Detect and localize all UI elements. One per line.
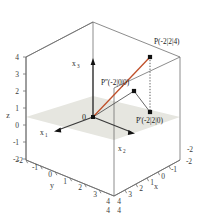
axis-x: 4 3 2 1 0 -1 -2 x (114, 157, 192, 206)
z-tick-5: -1 (13, 138, 19, 147)
point-marker-P-prime (148, 110, 152, 114)
z-tick-4: 0 (15, 121, 19, 130)
y-tick-0: -2 (17, 156, 23, 165)
axis-y: -2 -1 0 1 2 3 4 y (17, 156, 114, 206)
y-tick-4: 2 (78, 183, 82, 192)
y-tick-3: 1 (63, 177, 67, 186)
z-tick-2: 2 (15, 87, 19, 96)
x-tick-2: 2 (139, 184, 143, 193)
z-tick-1: 3 (15, 70, 19, 79)
y-tick-1: -1 (32, 163, 38, 172)
axis-vector-x2: x (118, 144, 122, 153)
y-tick-6: 4 (106, 197, 110, 206)
point-label-P-prime: P'(-2|2|0) (136, 116, 163, 125)
axis-vector-x2-sub: 2 (123, 148, 126, 154)
x-tick-0: 4 (117, 197, 121, 206)
figure-canvas: 4 3 2 1 0 -1 -2 z -2 -1 0 1 2 3 (0, 0, 203, 218)
x-tick-4: 0 (161, 172, 165, 181)
axis-label-z: z (6, 111, 10, 120)
axis-label-y: y (50, 181, 54, 190)
corner-front-tick: 4 (106, 206, 110, 215)
axis-label-x: x (154, 182, 158, 191)
axis-vector-x1-sub: 1 (45, 132, 48, 138)
z-tick-3: 1 (15, 104, 19, 113)
y-tick-2: 0 (48, 170, 52, 179)
y-tick-5: 3 (93, 190, 97, 199)
origin-label: 0 (82, 113, 86, 122)
point-marker-P-dblprime (132, 89, 136, 93)
corner-right-tick: -2 (187, 145, 193, 154)
axis-vector-x1: x (40, 128, 44, 137)
axis-z: 4 3 2 1 0 -1 -2 z (6, 53, 26, 164)
point-marker-origin (91, 115, 95, 119)
corner-front-tick-dup: 4 (117, 206, 121, 215)
z-tick-0: 4 (15, 53, 19, 62)
coordinate-system-figure: 4 3 2 1 0 -1 -2 z -2 -1 0 1 2 3 (0, 0, 203, 218)
point-label-P: P(-2|2|4) (154, 37, 180, 46)
axis-vector-x3-sub: 3 (77, 63, 80, 69)
point-marker-P (148, 55, 152, 59)
axis-vector-x3: x (72, 59, 76, 68)
x-tick-1: 3 (128, 190, 132, 199)
x-tick-6: -2 (186, 157, 192, 166)
point-label-P-dblprime: Pʺ(-2|0|0) (101, 78, 130, 87)
x-tick-5: -1 (171, 165, 177, 174)
